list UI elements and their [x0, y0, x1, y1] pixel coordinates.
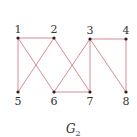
- edges: [18, 38, 126, 92]
- node-label-2: 2: [51, 23, 58, 36]
- node-8: [124, 90, 127, 93]
- edge-3-8: [90, 39, 126, 92]
- node-label-3: 3: [87, 24, 94, 37]
- node-label-7: 7: [87, 95, 94, 108]
- node-label-5: 5: [15, 95, 22, 108]
- node-6: [52, 90, 55, 93]
- node-label-8: 8: [123, 95, 130, 108]
- node-7: [88, 90, 91, 93]
- node-2: [52, 36, 55, 39]
- node-4: [124, 37, 127, 40]
- node-3: [88, 37, 91, 40]
- node-label-4: 4: [123, 24, 130, 37]
- graph-caption: G2: [66, 122, 81, 137]
- node-1: [16, 36, 19, 39]
- node-label-6: 6: [51, 95, 58, 108]
- graph-diagram: 12345678 G2: [0, 0, 137, 137]
- node-5: [16, 90, 19, 93]
- node-label-1: 1: [15, 23, 22, 36]
